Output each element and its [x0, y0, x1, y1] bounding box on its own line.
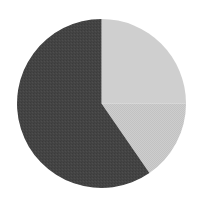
pie-chart-figure [0, 0, 201, 203]
pie-chart-svg [0, 0, 201, 203]
pie-slice-group [17, 19, 186, 188]
pie-slice [102, 19, 187, 104]
pie-chart-canvas [0, 0, 201, 203]
